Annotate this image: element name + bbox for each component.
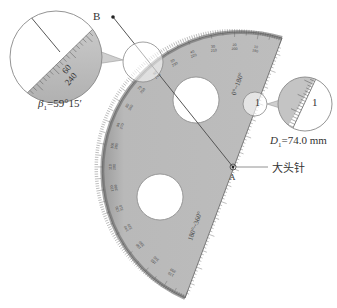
protractor: 1019020200302104022050230602407025080260…: [95, 29, 283, 298]
pin-label: 大头针: [272, 159, 305, 175]
svg-text:290: 290: [112, 164, 116, 170]
diagram-canvas: 1019020200302104022050230602407025080260…: [0, 0, 337, 308]
zoom-circle-mark: 1: [312, 96, 318, 108]
magnify-source-circle: [123, 42, 163, 82]
d-symbol: D: [270, 134, 278, 146]
beta-value: =59°15′: [47, 97, 82, 109]
point-a: [232, 166, 234, 168]
d-value: =74.0 mm: [281, 134, 326, 146]
lower-hole: [137, 174, 183, 220]
point-b-label: B: [93, 10, 100, 22]
svg-text:200: 200: [231, 47, 237, 51]
distance-measurement: D1=74.0 mm: [270, 134, 327, 149]
point-a-label: A: [229, 172, 236, 182]
beta-measurement: β1=59°15′: [38, 97, 82, 112]
small-circle-mark: 1: [255, 97, 260, 108]
point-b: [111, 15, 115, 19]
protractor-diagram: 1019020200302104022050230602407025080260…: [0, 0, 337, 308]
